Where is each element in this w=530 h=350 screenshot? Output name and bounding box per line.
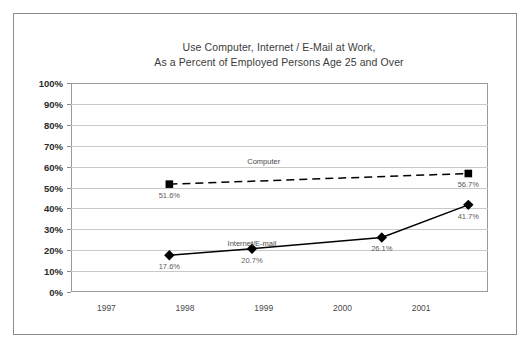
data-point-label: 17.6% [159,262,180,271]
series-annotation-label: Internet/E-mail [228,239,277,248]
y-axis-tick-label: 30% [44,224,63,235]
series-line [169,205,468,255]
x-axis-tick-label: 1999 [254,303,273,313]
chart-outer-frame: Use Computer, Internet / E-Mail at Work,… [13,13,517,335]
x-axis-tick-label: 2000 [333,303,352,313]
diamond-marker-icon [164,250,174,260]
diamond-marker-icon [463,200,473,210]
data-point-label: 26.1% [371,244,392,253]
data-point-label: 20.7% [241,256,262,265]
y-axis-tick-label: 100% [39,78,63,89]
series-layer [71,83,488,292]
chart-figure: Use Computer, Internet / E-Mail at Work,… [0,0,530,350]
diamond-marker-icon [377,232,387,242]
x-axis-tick-label: 2001 [412,303,431,313]
series-annotation-label: Computer [247,157,280,166]
data-point-label: 56.7% [458,180,479,189]
x-axis-tick-label: 1997 [97,303,116,313]
chart-title: Use Computer, Internet / E-Mail at Work,… [54,40,504,70]
square-marker-icon [465,170,473,178]
y-axis-tick-label: 80% [44,119,63,130]
y-tick-mark [67,292,71,293]
series-line [169,173,468,184]
plot-wrapper: 100%90%80%70%60%50%40%30%20%10%0% 199719… [71,83,488,292]
y-axis-tick-label: 90% [44,98,63,109]
data-point-label: 41.7% [458,212,479,221]
chart-title-line-1: Use Computer, Internet / E-Mail at Work, [183,41,376,53]
square-marker-icon [166,180,174,188]
y-axis-tick-label: 50% [44,182,63,193]
x-axis-tick-label: 1998 [176,303,195,313]
y-axis-tick-label: 40% [44,203,63,214]
y-axis-tick-label: 10% [44,266,63,277]
chart-title-line-2: As a Percent of Employed Persons Age 25 … [54,55,504,70]
y-axis-tick-label: 70% [44,140,63,151]
data-point-label: 51.6% [159,191,180,200]
y-axis-tick-label: 20% [44,245,63,256]
y-axis-tick-label: 60% [44,161,63,172]
y-axis-tick-label: 0% [49,287,63,298]
